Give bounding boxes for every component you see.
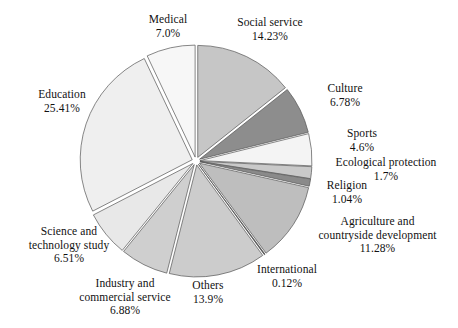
slice-label-industry-name-line1: Industry and bbox=[50, 277, 200, 291]
pie-chart: Medical 7.0% Social service 14.23% Cultu… bbox=[0, 0, 458, 328]
slice-label-agriculture-name-line2: countryside development bbox=[300, 229, 455, 243]
slice-label-religion-name: Religion bbox=[302, 179, 392, 193]
slice-label-agriculture-value: 11.28% bbox=[300, 242, 455, 256]
slice-label-sports-value: 4.6% bbox=[322, 141, 402, 155]
slice-label-science-technology-study: Science and technology study 6.51% bbox=[4, 225, 134, 266]
slice-label-social-service-name: Social service bbox=[210, 16, 330, 30]
slice-label-science-value: 6.51% bbox=[4, 252, 134, 266]
slice-label-religion: Religion 1.04% bbox=[302, 179, 392, 206]
slice-label-international: International 0.12% bbox=[232, 263, 342, 290]
slice-label-industry-name-line2: commercial service bbox=[50, 291, 200, 305]
slice-label-culture-value: 6.78% bbox=[300, 96, 390, 110]
slice-label-international-value: 0.12% bbox=[232, 277, 342, 291]
slice-label-science-name-line1: Science and bbox=[4, 225, 134, 239]
slice-label-sports-name: Sports bbox=[322, 127, 402, 141]
slice-label-culture-name: Culture bbox=[300, 82, 390, 96]
slice-label-agriculture: Agriculture and countryside development … bbox=[300, 215, 455, 256]
slice-label-medical-value: 7.0% bbox=[118, 27, 218, 41]
slice-label-science-name-line2: technology study bbox=[4, 239, 134, 253]
slice-label-education-value: 25.41% bbox=[2, 102, 122, 116]
slice-label-industry-value: 6.88% bbox=[50, 304, 200, 318]
slice-label-social-service: Social service 14.23% bbox=[210, 16, 330, 43]
slice-label-sports: Sports 4.6% bbox=[322, 127, 402, 154]
slice-label-social-service-value: 14.23% bbox=[210, 30, 330, 44]
slice-label-medical-name: Medical bbox=[118, 13, 218, 27]
slice-label-industry-commercial-service: Industry and commercial service 6.88% bbox=[50, 277, 200, 318]
slice-label-international-name: International bbox=[232, 263, 342, 277]
slice-label-ecological-protection-name: Ecological protection bbox=[316, 156, 456, 170]
slice-label-religion-value: 1.04% bbox=[302, 193, 392, 207]
slice-label-education: Education 25.41% bbox=[2, 88, 122, 115]
slice-label-education-name: Education bbox=[2, 88, 122, 102]
slice-label-culture: Culture 6.78% bbox=[300, 82, 390, 109]
slice-label-agriculture-name-line1: Agriculture and bbox=[300, 215, 455, 229]
slice-label-medical: Medical 7.0% bbox=[118, 13, 218, 40]
